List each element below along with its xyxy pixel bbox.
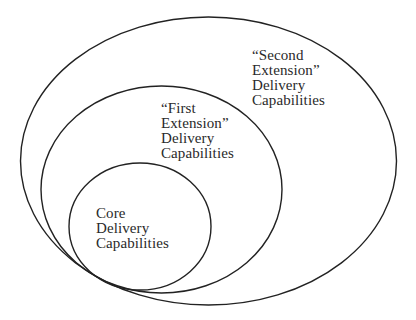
first-extension-label: “First Extension” Delivery Capabilities: [161, 101, 234, 161]
second-extension-line-1: “Second: [252, 48, 325, 63]
core-label: Core Delivery Capabilities: [96, 206, 169, 251]
first-extension-line-3: Delivery: [161, 131, 234, 146]
first-extension-line-4: Capabilities: [161, 146, 234, 161]
core-line-1: Core: [96, 206, 169, 221]
outer-ellipse-second-extension: [21, 17, 397, 305]
second-extension-line-3: Delivery: [252, 78, 325, 93]
core-line-2: Delivery: [96, 221, 169, 236]
second-extension-label: “Second Extension” Delivery Capabilities: [252, 48, 325, 108]
first-extension-line-1: “First: [161, 101, 234, 116]
second-extension-line-4: Capabilities: [252, 93, 325, 108]
core-line-3: Capabilities: [96, 236, 169, 251]
first-extension-line-2: Extension”: [161, 116, 234, 131]
second-extension-line-2: Extension”: [252, 63, 325, 78]
